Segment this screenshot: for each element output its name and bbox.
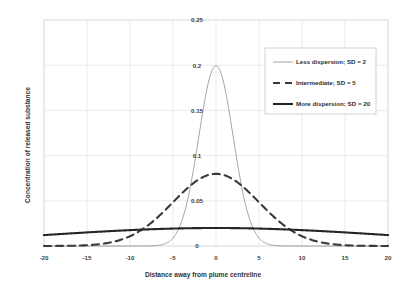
legend-label-3: More dispersion; SD = 20 [296, 100, 371, 107]
y-axis-title: Concentration of released substance [24, 87, 31, 203]
x-tick-label: -10 [126, 254, 136, 261]
y-tick-label: 0.1 [193, 152, 202, 159]
x-tick-label: 20 [385, 254, 392, 261]
x-tick-label: -5 [170, 254, 176, 261]
x-tick-label: 15 [342, 254, 349, 261]
y-tick-label: 0.2 [193, 62, 202, 69]
legend-label-1: Less dispersion; SD = 2 [296, 58, 367, 65]
x-axis-title: Distance away from plume centreline [145, 271, 261, 279]
dispersion-line-chart: -20-15-10-505101520 00.050.10.150.20.25 … [0, 0, 406, 299]
y-tick-label: 0 [195, 242, 199, 249]
y-tick-label: 0.25 [191, 16, 204, 23]
x-tick-label: -15 [83, 254, 93, 261]
x-tick-label: 0 [214, 254, 218, 261]
x-tick-label: 5 [257, 254, 261, 261]
chart-container: -20-15-10-505101520 00.050.10.150.20.25 … [0, 0, 406, 299]
y-tick-label: 0.15 [191, 107, 204, 114]
chart-legend: Less dispersion; SD = 2Intermediate; SD … [265, 48, 376, 114]
x-tick-label: -20 [40, 254, 50, 261]
x-tick-label: 10 [299, 254, 306, 261]
legend-label-2: Intermediate; SD = 5 [296, 79, 356, 86]
y-tick-label: 0.05 [191, 197, 204, 204]
